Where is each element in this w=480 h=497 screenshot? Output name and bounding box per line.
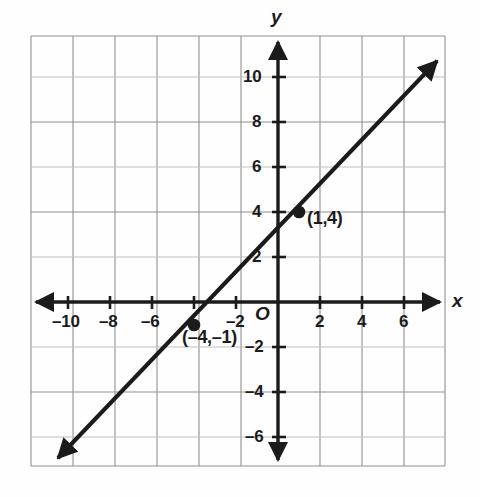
y-tick-label--2: –2 [245, 337, 264, 357]
x-tick-label-2: 2 [315, 312, 324, 332]
point-label-1-4: (1,4) [307, 208, 343, 229]
y-tick-label--4: –4 [245, 382, 264, 402]
graph-figure: y x O –10 –8 –6 –2 2 4 6 10 8 6 4 2 –2 –… [0, 0, 480, 497]
y-axis-label: y [271, 6, 282, 28]
x-tick-label--8: –8 [99, 312, 118, 332]
x-axis-label: x [452, 290, 463, 312]
x-tick-label--6: –6 [141, 312, 160, 332]
x-tick-label-6: 6 [399, 312, 408, 332]
y-tick-label--6: –6 [245, 427, 264, 447]
plot-background [31, 36, 445, 466]
y-tick-label-6: 6 [252, 157, 261, 177]
coordinate-plane-svg [0, 0, 480, 497]
y-tick-label-2: 2 [252, 247, 261, 267]
plot-point-1-4 [293, 206, 306, 219]
x-tick-label--10: –10 [52, 312, 80, 332]
y-tick-label-4: 4 [252, 202, 261, 222]
y-tick-label-10: 10 [243, 67, 262, 87]
x-tick-label-4: 4 [357, 312, 366, 332]
y-tick-label-8: 8 [252, 112, 261, 132]
point-label-neg4-neg1: (–4,–1) [182, 327, 237, 348]
origin-label: O [255, 303, 270, 325]
